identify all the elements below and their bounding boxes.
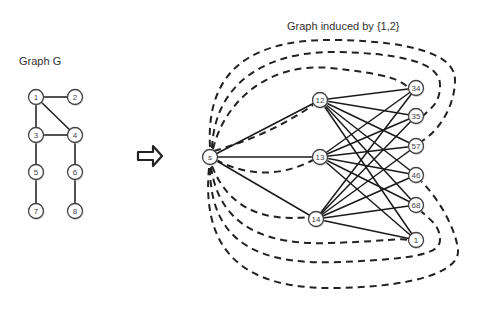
svg-text:s: s (208, 153, 212, 162)
graph-node: 1 (409, 233, 425, 250)
graph-node: 2 (68, 90, 84, 107)
svg-text:6: 6 (73, 168, 78, 177)
svg-text:14: 14 (312, 215, 321, 224)
svg-text:3: 3 (34, 131, 39, 140)
svg-text:7: 7 (34, 207, 39, 216)
graph-node: 46 (409, 168, 425, 185)
arrow-right-icon (138, 146, 162, 166)
graph-node: 12 (313, 93, 329, 110)
svg-text:5: 5 (34, 168, 39, 177)
graph-node: s (203, 150, 219, 167)
svg-text:46: 46 (412, 171, 421, 180)
svg-text:8: 8 (73, 207, 78, 216)
graph-node: 5 (29, 165, 45, 182)
dashed-edge (208, 168, 458, 288)
svg-text:2: 2 (73, 93, 78, 102)
solid-edges (36, 88, 416, 240)
graph-node: 35 (409, 109, 425, 126)
graph-node: 14 (309, 212, 325, 229)
svg-text:12: 12 (316, 96, 325, 105)
graph-node: 7 (29, 204, 45, 221)
svg-text:4: 4 (73, 131, 78, 140)
svg-text:13: 13 (316, 153, 325, 162)
edge (320, 100, 416, 205)
svg-text:1: 1 (34, 93, 39, 102)
svg-text:1: 1 (414, 236, 419, 245)
edge (210, 100, 320, 157)
svg-text:68: 68 (412, 201, 421, 210)
svg-text:35: 35 (412, 112, 421, 121)
graph-node: 57 (409, 139, 425, 156)
edge (316, 146, 416, 219)
edge (316, 219, 416, 240)
graph-node: 3 (29, 128, 45, 145)
svg-text:57: 57 (412, 142, 421, 151)
graph-node: 68 (409, 198, 425, 215)
graph-node: 13 (313, 150, 329, 167)
dashed-edge (212, 166, 309, 218)
diagram-canvas: 12345678s12131434355746681 (0, 0, 484, 309)
dashed-edge (216, 160, 313, 173)
graph-node: 4 (68, 128, 84, 145)
graph-node: 6 (68, 165, 84, 182)
graph-node: 1 (29, 90, 45, 107)
graph-node: 8 (68, 204, 84, 221)
svg-text:34: 34 (412, 84, 421, 93)
